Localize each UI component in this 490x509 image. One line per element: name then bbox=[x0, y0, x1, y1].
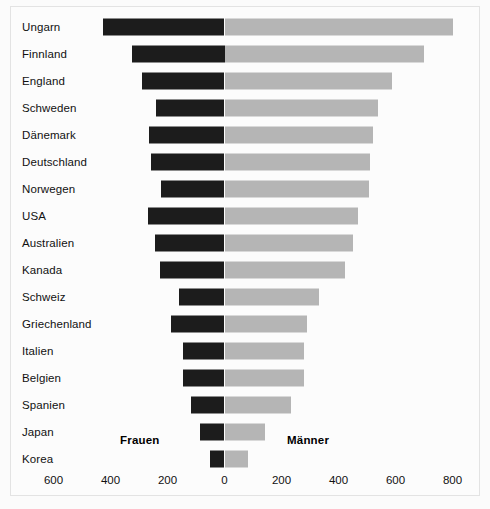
category-label-korea: Korea bbox=[22, 453, 53, 465]
x-axis-tick-label: 0 bbox=[221, 474, 227, 486]
series-label-maenner: Männer bbox=[287, 434, 329, 446]
x-axis-tick-label: 400 bbox=[101, 474, 120, 486]
x-axis-tick-label: 600 bbox=[386, 474, 405, 486]
bar-maenner-ungarn bbox=[225, 18, 453, 35]
x-axis-tick-label: 400 bbox=[329, 474, 348, 486]
category-label-australien: Australien bbox=[22, 237, 74, 249]
bar-maenner-dnemark bbox=[225, 126, 373, 143]
category-label-belgien: Belgien bbox=[22, 372, 61, 384]
bar-row: Griechenland bbox=[0, 310, 490, 337]
x-axis-tick-label: 200 bbox=[272, 474, 291, 486]
bar-frauen-australien bbox=[155, 234, 225, 251]
x-axis: 6004002000200400600800 bbox=[0, 474, 490, 496]
bar-row: Italien bbox=[0, 337, 490, 364]
bar-row: Dänemark bbox=[0, 121, 490, 148]
category-label-finnland: Finnland bbox=[22, 48, 67, 60]
bar-maenner-belgien bbox=[225, 369, 305, 386]
bar-maenner-kanada bbox=[225, 261, 346, 278]
bar-row: Ungarn bbox=[0, 13, 490, 40]
bar-frauen-usa bbox=[148, 207, 224, 224]
bar-row: USA bbox=[0, 202, 490, 229]
bar-frauen-japan bbox=[200, 423, 225, 440]
bar-row: Spanien bbox=[0, 391, 490, 418]
chart-figure: UngarnFinnlandEnglandSchwedenDänemarkDeu… bbox=[0, 0, 490, 509]
bar-maenner-norwegen bbox=[225, 180, 369, 197]
bar-frauen-deutschland bbox=[151, 153, 225, 170]
bar-frauen-korea bbox=[210, 450, 225, 467]
bar-maenner-england bbox=[225, 72, 393, 89]
category-label-spanien: Spanien bbox=[22, 399, 65, 411]
x-axis-tick-label: 600 bbox=[44, 474, 63, 486]
bar-row: Kanada bbox=[0, 256, 490, 283]
bar-maenner-usa bbox=[225, 207, 359, 224]
bar-maenner-italien bbox=[225, 342, 305, 359]
bar-frauen-schweden bbox=[156, 99, 224, 116]
bar-row: Korea bbox=[0, 445, 490, 472]
x-axis-tick-label: 800 bbox=[443, 474, 462, 486]
bar-frauen-spanien bbox=[191, 396, 225, 413]
bar-row: Schweiz bbox=[0, 283, 490, 310]
series-label-frauen: Frauen bbox=[120, 434, 160, 446]
category-label-england: England bbox=[22, 75, 65, 87]
bar-row: Deutschland bbox=[0, 148, 490, 175]
bar-row: Schweden bbox=[0, 94, 490, 121]
category-label-norwegen: Norwegen bbox=[22, 183, 75, 195]
bar-maenner-schweden bbox=[225, 99, 379, 116]
bar-frauen-belgien bbox=[183, 369, 225, 386]
category-label-ungarn: Ungarn bbox=[22, 21, 60, 33]
category-label-italien: Italien bbox=[22, 345, 53, 357]
bar-frauen-griechenland bbox=[171, 315, 225, 332]
category-label-japan: Japan bbox=[22, 426, 54, 438]
category-label-dnemark: Dänemark bbox=[22, 129, 76, 141]
bar-frauen-italien bbox=[183, 342, 225, 359]
bar-frauen-ungarn bbox=[103, 18, 225, 35]
bar-rows-container: UngarnFinnlandEnglandSchwedenDänemarkDeu… bbox=[0, 0, 490, 509]
bar-row: Japan bbox=[0, 418, 490, 445]
bar-maenner-finnland bbox=[225, 45, 425, 62]
bar-maenner-spanien bbox=[225, 396, 291, 413]
bar-row: Finnland bbox=[0, 40, 490, 67]
category-label-griechenland: Griechenland bbox=[22, 318, 92, 330]
bar-row: Australien bbox=[0, 229, 490, 256]
category-label-kanada: Kanada bbox=[22, 264, 62, 276]
bar-maenner-australien bbox=[225, 234, 354, 251]
bar-frauen-schweiz bbox=[179, 288, 225, 305]
bar-frauen-dnemark bbox=[149, 126, 225, 143]
bar-frauen-england bbox=[142, 72, 224, 89]
bar-maenner-schweiz bbox=[225, 288, 320, 305]
bar-maenner-korea bbox=[225, 450, 248, 467]
bar-row: England bbox=[0, 67, 490, 94]
category-label-schweden: Schweden bbox=[22, 102, 77, 114]
bar-row: Belgien bbox=[0, 364, 490, 391]
category-label-usa: USA bbox=[22, 210, 46, 222]
bar-maenner-japan bbox=[225, 423, 265, 440]
x-axis-tick-label: 200 bbox=[158, 474, 177, 486]
category-label-deutschland: Deutschland bbox=[22, 156, 87, 168]
bar-frauen-kanada bbox=[160, 261, 224, 278]
bar-maenner-griechenland bbox=[225, 315, 308, 332]
category-label-schweiz: Schweiz bbox=[22, 291, 66, 303]
bar-row: Norwegen bbox=[0, 175, 490, 202]
bar-frauen-norwegen bbox=[161, 180, 225, 197]
bar-maenner-deutschland bbox=[225, 153, 371, 170]
bar-frauen-finnland bbox=[132, 45, 225, 62]
